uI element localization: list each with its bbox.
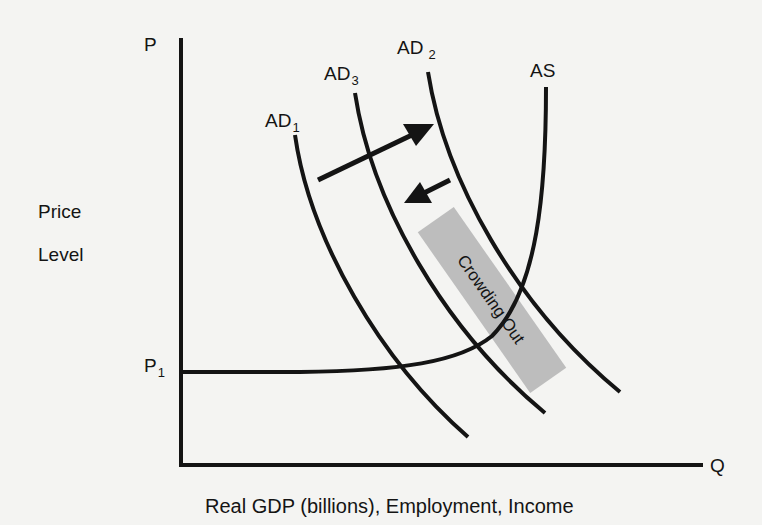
ad2-sub: 2: [428, 47, 435, 62]
ad-as-diagram: Crowding Out: [0, 0, 762, 525]
ad3-label: AD3: [324, 64, 359, 83]
p1-base: P: [144, 355, 157, 376]
ad2-label: AD2: [397, 38, 436, 57]
x-axis-symbol: Q: [710, 456, 725, 475]
p1-sub: 1: [158, 365, 165, 380]
y-axis-label-line1: Price: [38, 202, 81, 221]
ad1-sub: 1: [292, 120, 299, 135]
ad1-label: AD1: [265, 111, 300, 130]
price-level-p1-label: P1: [144, 356, 165, 375]
y-axis-label-line2: Level: [38, 245, 83, 264]
x-axis-label: Real GDP (billions), Employment, Income: [205, 496, 574, 516]
arrow-shift-left-icon: [404, 180, 450, 203]
ad3-sub: 3: [351, 73, 358, 88]
y-axis-symbol: P: [144, 35, 157, 54]
as-label: AS: [530, 61, 555, 80]
ad1-base: AD: [265, 110, 291, 131]
ad3-base: AD: [324, 63, 350, 84]
ad2-base: AD: [397, 37, 423, 58]
